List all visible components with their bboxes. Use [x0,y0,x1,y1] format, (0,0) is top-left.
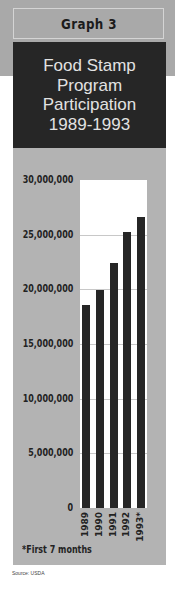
y-tick-label: 10,000,000 [22,394,73,404]
y-tick-label: 5,000,000 [28,448,73,458]
source-note: Source: USDA [12,570,45,576]
bar-1989 [82,305,90,508]
x-tick-label: 1989 [81,512,90,537]
chart-title-line: Food Stamp [43,56,136,76]
y-tick-label: 20,000,000 [22,284,73,294]
bar-1990 [96,290,104,508]
graph-label-box: Graph 3 [13,8,164,39]
chart-title-line: Program [57,76,122,96]
y-tick-label: 0 [67,503,73,513]
x-tick-label: 1993* [136,512,145,542]
graph-label: Graph 3 [60,16,116,32]
footnote: *First 7 months [22,544,92,555]
chart-title-line: 1989-1993 [49,115,130,135]
y-tick-label: 30,000,000 [22,175,73,185]
y-tick-label: 15,000,000 [22,339,73,349]
bar-1991 [110,263,118,508]
y-tick-label: 25,000,000 [22,230,73,240]
chart-title-box: Food Stamp Program Participation 1989-19… [13,42,166,148]
bar-1993 [137,217,145,508]
chart-title-line: Participation [43,95,137,115]
x-tick-label: 1990 [95,512,104,537]
x-tick-label: 1991 [109,512,118,537]
x-tick-label: 1992 [122,512,131,537]
bar-1992 [123,232,131,508]
plot-area [80,180,147,508]
